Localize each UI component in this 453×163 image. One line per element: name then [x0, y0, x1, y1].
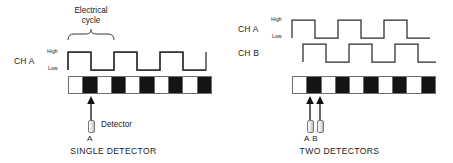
strip-segment-white [155, 77, 169, 93]
channel-b-name: CH B [238, 49, 259, 58]
strip-segment-white [350, 77, 364, 93]
strip-segment-black [140, 77, 154, 93]
strip-segment-black [307, 77, 321, 93]
detector-a-label: A [87, 135, 93, 143]
channel-a-waveform-2 [292, 20, 430, 38]
encoder-strip-two [292, 76, 436, 94]
strip-segment-white [183, 77, 197, 93]
channel-a-waveform-tail [68, 52, 206, 70]
panel-single-detector: Electrical cycle CH A High Low Detector … [0, 0, 227, 163]
detector-b-arrow-head [316, 96, 324, 104]
strip-segment-white [379, 77, 393, 93]
channel-a-high-label: High [47, 49, 58, 54]
strip-segment-black [112, 77, 126, 93]
strip-segment-white [293, 77, 307, 93]
electrical-cycle-brace [68, 30, 114, 41]
detector-ab-labels: A B [304, 135, 318, 143]
strip-segment-white [126, 77, 140, 93]
channel-a-low-label: Low [48, 66, 58, 71]
caption-single-detector: SINGLE DETECTOR [0, 147, 227, 156]
caption-two-detectors: TWO DETECTORS [226, 147, 453, 156]
detector-caption: Detector [101, 121, 132, 129]
channel-a-name: CH A [14, 57, 35, 66]
strip-segment-black [422, 77, 435, 93]
channel-a-name-2: CH A [238, 25, 259, 34]
strip-segment-black [336, 77, 350, 93]
strip-segment-black [393, 77, 407, 93]
strip-segment-white [407, 77, 421, 93]
strip-segment-black [198, 77, 211, 93]
strip-segment-white [98, 77, 112, 93]
channel-a-low-label-2: Low [272, 34, 282, 39]
strip-segment-black [364, 77, 378, 93]
channel-b-waveform [303, 44, 436, 62]
panel-two-detectors: CH A High Low CH B A B TWO DETECTORS [226, 0, 453, 163]
strip-segment-white [322, 77, 336, 93]
encoder-strip-single [68, 76, 212, 94]
detector-a-body-2 [307, 120, 314, 133]
strip-segment-black [169, 77, 183, 93]
detector-a-arrow-head [87, 96, 95, 104]
detector-b-body [317, 120, 324, 133]
strip-segment-white [69, 77, 83, 93]
strip-segment-black [83, 77, 97, 93]
detector-a-arrow-head-2 [306, 96, 314, 104]
detector-a-body [88, 120, 95, 133]
channel-a-high-label-2: High [271, 17, 282, 22]
